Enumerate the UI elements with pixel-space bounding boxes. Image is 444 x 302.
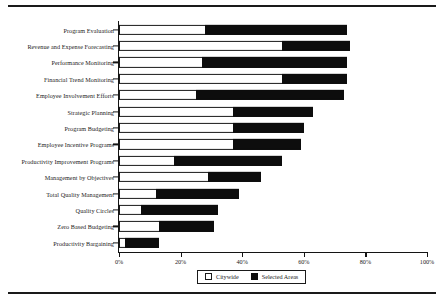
bar-row: Quality Circles xyxy=(0,202,444,218)
stacked-bar xyxy=(119,123,304,133)
stacked-bar xyxy=(119,74,347,84)
stacked-bar xyxy=(119,221,214,231)
bar-segment-citywide xyxy=(119,205,141,215)
legend-swatch-outline-square-icon xyxy=(205,273,212,280)
x-axis-tick xyxy=(427,252,428,257)
bar-segment-citywide xyxy=(119,74,282,84)
x-axis-tick xyxy=(119,252,120,257)
bar-segment-citywide xyxy=(119,156,174,166)
stacked-bar xyxy=(119,90,344,100)
stacked-bar xyxy=(119,156,282,166)
bar-row: Total Quality Management xyxy=(0,186,444,202)
bar-segment-citywide xyxy=(119,25,205,35)
category-label: Employee Involvement Efforts xyxy=(36,92,118,99)
x-axis-tick-label: 0% xyxy=(115,258,123,265)
bar-row: Program Evaluation xyxy=(0,22,444,38)
bar-segment-citywide xyxy=(119,90,196,100)
bar-segment-citywide xyxy=(119,172,208,182)
bar-segment-selected-areas xyxy=(156,189,239,199)
bar-segment-selected-areas xyxy=(282,41,350,51)
bar-segment-citywide xyxy=(119,123,233,133)
bar-row: Management by Objectives xyxy=(0,169,444,185)
bar-segment-citywide xyxy=(119,57,202,67)
x-axis-tick xyxy=(181,252,182,257)
bar-segment-selected-areas xyxy=(141,205,218,215)
chart-legend: Citywide Selected Areas xyxy=(197,270,306,284)
category-label: Management by Objectives xyxy=(45,174,118,181)
legend-swatch-filled-square-icon xyxy=(251,273,258,280)
x-axis-tick xyxy=(304,252,305,257)
plot-area: Program EvaluationRevenue and Expense Fo… xyxy=(0,0,444,302)
bar-segment-citywide xyxy=(119,107,233,117)
x-axis-tick-label: 60% xyxy=(298,258,309,265)
bar-segment-selected-areas xyxy=(233,123,304,133)
bar-row: Employee Involvement Efforts xyxy=(0,87,444,103)
category-label: Total Quality Management xyxy=(46,190,118,197)
x-axis-line xyxy=(118,252,427,253)
legend-label-selected-areas: Selected Areas xyxy=(262,273,299,280)
legend-item-citywide: Citywide xyxy=(205,273,239,280)
stacked-bar xyxy=(119,107,313,117)
stacked-bar xyxy=(119,139,301,149)
stacked-bar xyxy=(119,57,347,67)
bar-segment-citywide xyxy=(119,221,159,231)
bar-row: Revenue and Expense Forecasting xyxy=(0,38,444,54)
category-label: Program Budgeting xyxy=(65,125,119,132)
stacked-bar xyxy=(119,172,261,182)
category-label: Revenue and Expense Forecasting xyxy=(27,43,118,50)
bar-row: Productivity Bargaining xyxy=(0,235,444,251)
bar-segment-selected-areas xyxy=(233,139,301,149)
category-label: Productivity Bargaining xyxy=(53,239,118,246)
bar-segment-selected-areas xyxy=(159,221,214,231)
bar-row: Performance Monitoring xyxy=(0,54,444,70)
x-axis-tick-label: 40% xyxy=(237,258,248,265)
x-axis-tick xyxy=(242,252,243,257)
category-label: Productivity Improvement Programs xyxy=(22,157,118,164)
bar-row: Financial Trend Monitoring xyxy=(0,71,444,87)
x-axis-tick xyxy=(365,252,366,257)
legend-item-selected-areas: Selected Areas xyxy=(251,273,299,280)
x-axis-tick-label: 100% xyxy=(420,258,434,265)
stacked-bar xyxy=(119,25,347,35)
bar-row: Zero Based Budgeting xyxy=(0,218,444,234)
bar-row: Productivity Improvement Programs xyxy=(0,153,444,169)
stacked-bar xyxy=(119,205,218,215)
stacked-bar xyxy=(119,41,350,51)
bar-segment-selected-areas xyxy=(196,90,344,100)
category-label: Employee Incentive Programs xyxy=(38,141,118,148)
bar-row: Strategic Planning xyxy=(0,104,444,120)
category-label: Financial Trend Monitoring xyxy=(44,75,118,82)
bar-segment-selected-areas xyxy=(282,74,347,84)
category-label: Program Evaluation xyxy=(63,26,118,33)
bar-segment-citywide xyxy=(119,189,156,199)
bar-row: Program Budgeting xyxy=(0,120,444,136)
legend-label-citywide: Citywide xyxy=(216,273,239,280)
bar-segment-selected-areas xyxy=(205,25,347,35)
bar-row: Employee Incentive Programs xyxy=(0,136,444,152)
stacked-bar xyxy=(119,189,239,199)
bar-segment-selected-areas xyxy=(208,172,260,182)
bar-segment-citywide xyxy=(119,41,282,51)
x-axis-tick-label: 20% xyxy=(175,258,186,265)
bar-segment-selected-areas xyxy=(174,156,282,166)
bar-segment-citywide xyxy=(119,139,233,149)
stacked-bar xyxy=(119,238,159,248)
category-label: Zero Based Budgeting xyxy=(57,223,118,230)
category-label: Performance Monitoring xyxy=(52,59,118,66)
chart-figure: Program EvaluationRevenue and Expense Fo… xyxy=(0,0,444,302)
bar-segment-selected-areas xyxy=(202,57,347,67)
bar-segment-selected-areas xyxy=(125,238,159,248)
x-axis-tick-label: 80% xyxy=(360,258,371,265)
category-label: Quality Circles xyxy=(76,207,118,214)
category-label: Strategic Planning xyxy=(68,108,118,115)
bar-segment-selected-areas xyxy=(233,107,313,117)
